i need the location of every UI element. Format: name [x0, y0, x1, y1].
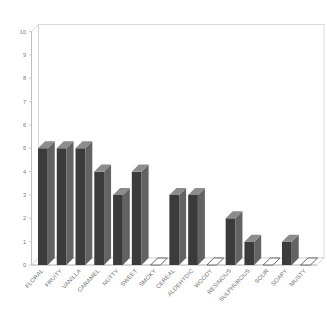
- bar: [132, 165, 149, 265]
- bar-chart: 012345678910FLORALFRUITYVANILLACARAMELNU…: [0, 0, 327, 333]
- y-tick-label: 8: [23, 75, 26, 81]
- bar: [188, 188, 205, 265]
- bar: [226, 211, 243, 265]
- bar: [94, 165, 111, 265]
- x-axis-category-label: MUSTY: [288, 268, 307, 288]
- bar-front-face: [38, 148, 48, 265]
- chart-canvas: 012345678910FLORALFRUITYVANILLACARAMELNU…: [0, 0, 327, 333]
- x-axis-category-label: SOUR: [253, 268, 269, 285]
- bar-front-face: [94, 172, 104, 265]
- bar-side-face: [142, 165, 149, 265]
- y-tick-label: 10: [20, 29, 26, 35]
- y-tick-label: 9: [23, 52, 26, 58]
- bar-front-face: [113, 195, 123, 265]
- bar: [113, 188, 130, 265]
- bar-side-face: [48, 141, 55, 265]
- bar-side-face: [104, 165, 111, 265]
- y-tick-label: 1: [23, 239, 26, 245]
- plot-left-wall: [32, 25, 39, 266]
- y-tick-label: 0: [23, 262, 26, 268]
- bar-side-face: [85, 141, 92, 265]
- y-tick-label: 7: [23, 99, 26, 105]
- bar: [57, 141, 74, 265]
- y-tick-label: 3: [23, 192, 26, 198]
- bar-front-face: [188, 195, 198, 265]
- y-tick-label: 4: [23, 169, 26, 175]
- bar-front-face: [282, 242, 292, 265]
- x-axis-category-label: FLORAL: [24, 267, 45, 289]
- bar-side-face: [123, 188, 130, 265]
- y-tick-label: 6: [23, 122, 26, 128]
- bar-side-face: [179, 188, 186, 265]
- bar: [169, 188, 186, 265]
- bar-front-face: [226, 218, 236, 265]
- bar-front-face: [244, 242, 254, 265]
- bar-front-face: [57, 148, 67, 265]
- x-axis-category-label: SWEET: [119, 267, 138, 287]
- bar: [76, 141, 93, 265]
- bar-side-face: [67, 141, 74, 265]
- bar: [282, 235, 299, 265]
- bar-front-face: [169, 195, 179, 265]
- x-axis-category-label: SOAPY: [270, 268, 289, 287]
- bar: [38, 141, 55, 265]
- bar-front-face: [76, 148, 86, 265]
- x-axis-category-label: NUTTY: [101, 268, 119, 287]
- bar: [244, 235, 261, 265]
- y-tick-label: 5: [23, 145, 26, 151]
- bar-front-face: [132, 172, 142, 265]
- bar-side-face: [198, 188, 205, 265]
- bar-side-face: [235, 211, 242, 265]
- y-tick-label: 2: [23, 215, 26, 221]
